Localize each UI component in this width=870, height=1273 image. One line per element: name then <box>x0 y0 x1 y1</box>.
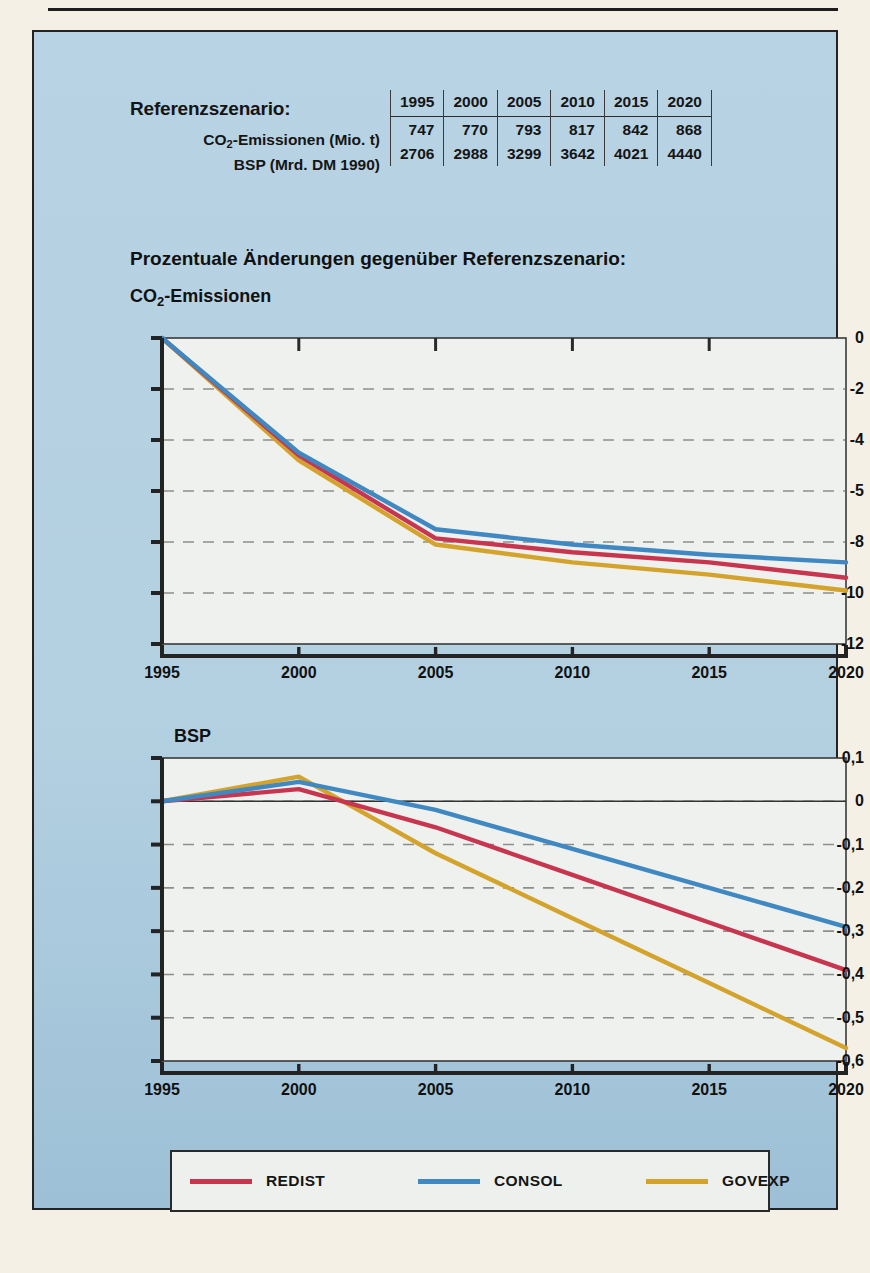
legend-color-swatch <box>190 1179 252 1184</box>
legend-item-redist[interactable]: REDIST <box>190 1172 325 1190</box>
y-axis-tick-label: -0,5 <box>812 1009 864 1027</box>
x-axis-tick-label: 2010 <box>555 1081 591 1099</box>
cell-co2: 842 <box>604 117 657 143</box>
col-year: 1995 <box>391 90 444 117</box>
x-axis-tick-label: 2000 <box>281 664 317 682</box>
y-axis-tick-label: -5 <box>812 482 864 500</box>
legend-color-swatch <box>646 1179 708 1184</box>
legend-item-consol[interactable]: CONSOL <box>418 1172 563 1190</box>
y-axis-tick-label: 0 <box>812 792 864 810</box>
col-year: 2015 <box>604 90 657 117</box>
x-axis-tick-label: 2010 <box>555 664 591 682</box>
y-axis-tick-label: -0,1 <box>812 836 864 854</box>
reference-values-table: 1995 2000 2005 2010 2015 2020 747 770 79… <box>390 90 712 166</box>
legend-color-swatch <box>418 1179 480 1184</box>
y-axis-tick-label: -10 <box>812 584 864 602</box>
page-top-rule <box>48 8 838 11</box>
y-axis-tick-label: -12 <box>812 635 864 653</box>
cell-bsp: 4021 <box>604 142 657 166</box>
legend-label: CONSOL <box>494 1172 563 1190</box>
chart-bsp: 0,10-0,1-0,2-0,3-0,4-0,5-0,6199520002005… <box>94 744 864 1119</box>
col-year: 2000 <box>444 90 497 117</box>
x-axis-tick-label: 1995 <box>144 1081 180 1099</box>
cell-co2: 817 <box>551 117 604 143</box>
y-axis-tick-label: -0,6 <box>812 1052 864 1070</box>
table-header-row: 1995 2000 2005 2010 2015 2020 <box>391 90 712 117</box>
cell-co2: 868 <box>658 117 711 143</box>
y-axis-tick-label: -4 <box>812 431 864 449</box>
y-axis-tick-label: -0,4 <box>812 965 864 983</box>
col-year: 2020 <box>658 90 711 117</box>
y-axis-tick-label: 0 <box>812 329 864 347</box>
chart-co2-svg <box>94 324 864 704</box>
chart-co2-emissions: 0-2-4-5-8-10-12199520002005201020152020 <box>94 324 864 704</box>
table-row: 2706 2988 3299 3642 4021 4440 <box>391 142 712 166</box>
x-axis-tick-label: 2020 <box>828 664 864 682</box>
legend-item-govexp[interactable]: GOVEXP <box>646 1172 790 1190</box>
x-axis-tick-label: 2005 <box>418 1081 454 1099</box>
cell-bsp: 2988 <box>444 142 497 166</box>
col-year: 2005 <box>497 90 550 117</box>
percent-changes-heading: Prozentuale Änderungen gegenüber Referen… <box>130 248 626 270</box>
cell-bsp: 4440 <box>658 142 711 166</box>
chart-bsp-svg <box>94 744 864 1119</box>
y-axis-tick-label: 0,1 <box>812 749 864 767</box>
chart-legend: REDISTCONSOLGOVEXP <box>170 1150 770 1212</box>
y-axis-tick-label: -8 <box>812 533 864 551</box>
cell-co2: 793 <box>497 117 550 143</box>
figure-panel: Referenzszenario: CO2-Emissionen (Mio. t… <box>32 30 838 1210</box>
cell-co2: 770 <box>444 117 497 143</box>
x-axis-tick-label: 2020 <box>828 1081 864 1099</box>
cell-bsp: 2706 <box>391 142 444 166</box>
cell-co2: 747 <box>391 117 444 143</box>
y-axis-tick-label: -0,3 <box>812 922 864 940</box>
x-axis-tick-label: 2005 <box>418 664 454 682</box>
reference-row-label-co2: CO2-Emissionen (Mio. t) <box>130 131 380 150</box>
y-axis-tick-label: -0,2 <box>812 879 864 897</box>
reference-table-title: Referenzszenario: <box>130 98 290 120</box>
x-axis-tick-label: 2000 <box>281 1081 317 1099</box>
reference-row-label-bsp: BSP (Mrd. DM 1990) <box>130 156 380 174</box>
legend-label: GOVEXP <box>722 1172 790 1190</box>
cell-bsp: 3642 <box>551 142 604 166</box>
y-axis-tick-label: -2 <box>812 380 864 398</box>
x-axis-tick-label: 2015 <box>691 1081 727 1099</box>
table-row: 747 770 793 817 842 868 <box>391 117 712 143</box>
x-axis-tick-label: 1995 <box>144 664 180 682</box>
x-axis-tick-label: 2015 <box>691 664 727 682</box>
cell-bsp: 3299 <box>497 142 550 166</box>
co2-chart-heading: CO2-Emissionen <box>130 286 271 309</box>
legend-label: REDIST <box>266 1172 325 1190</box>
col-year: 2010 <box>551 90 604 117</box>
